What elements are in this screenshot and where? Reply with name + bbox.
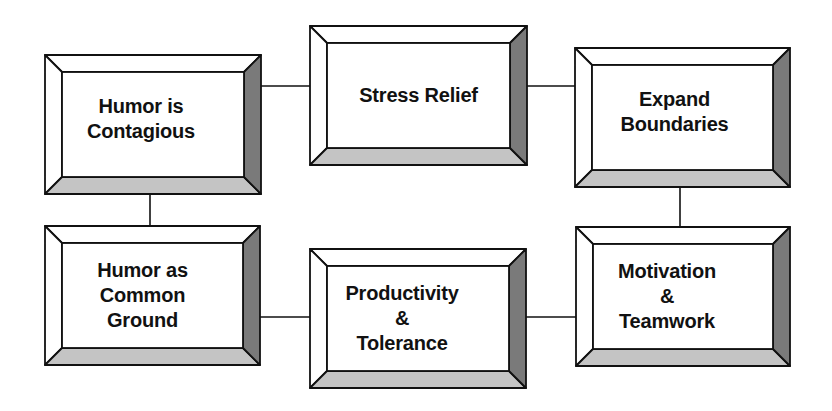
box-label-line: Motivation [618, 259, 716, 284]
box-label-line: Boundaries [620, 112, 728, 137]
bevel-right [773, 227, 790, 366]
bevel-top [310, 249, 526, 266]
bevel-top [45, 226, 260, 243]
box-label-line: & [660, 284, 674, 309]
bevel-right [773, 48, 790, 187]
box-label-line: Humor as [97, 258, 188, 283]
box-label-humor-is-contagious: Humor isContagious [50, 66, 232, 171]
box-label-line: Humor is [98, 94, 183, 119]
box-label-line: Common [100, 283, 185, 308]
bevel-bottom [45, 348, 260, 365]
box-label-line: Ground [107, 308, 178, 333]
bevel-left [310, 26, 327, 165]
box-label-line: & [395, 306, 409, 331]
bevel-bottom [45, 177, 261, 194]
box-label-line: Stress Relief [359, 83, 478, 108]
box-label-line: Tolerance [356, 331, 447, 356]
bevel-bottom [310, 371, 526, 388]
bevel-right [509, 249, 526, 388]
box-label-expand-boundaries: ExpandBoundaries [584, 59, 765, 164]
box-label-motivation-teamwork: Motivation&Teamwork [577, 244, 757, 349]
bevel-top [310, 26, 527, 43]
bevel-right [244, 55, 261, 194]
bevel-bottom [576, 349, 790, 366]
box-label-line: Teamwork [619, 309, 715, 334]
box-label-line: Contagious [87, 119, 195, 144]
diagram-canvas: Humor isContagiousStress ReliefExpandBou… [0, 0, 832, 411]
box-label-productivity-tolerance: Productivity&Tolerance [311, 266, 493, 371]
box-label-stress-relief: Stress Relief [327, 43, 510, 148]
box-label-humor-as-common-ground: Humor asCommonGround [52, 243, 233, 348]
bevel-bottom [310, 148, 527, 165]
box-label-line: Expand [639, 87, 710, 112]
bevel-bottom [575, 170, 790, 187]
box-label-line: Productivity [345, 281, 458, 306]
bevel-right [510, 26, 527, 165]
bevel-top [576, 227, 790, 244]
bevel-right [243, 226, 260, 365]
